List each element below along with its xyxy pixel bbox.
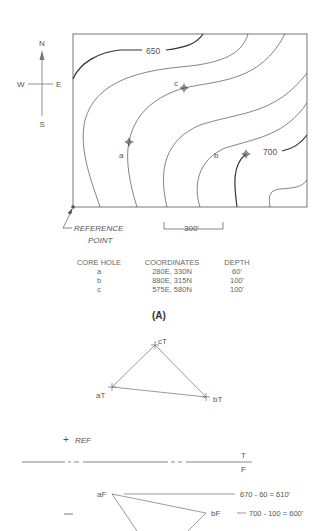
- equation-a: 670 - 60 = 610': [240, 490, 291, 499]
- cell-hole: a: [66, 267, 132, 276]
- core-hole-label-a: a: [119, 151, 124, 160]
- label-aT: aT: [96, 391, 105, 400]
- figure-caption: (A): [152, 310, 166, 321]
- contour-650: [73, 50, 142, 79]
- north-arrow-icon: [40, 50, 45, 60]
- cell-coordinates: 575E, 580N: [132, 285, 212, 294]
- compass-east: E: [56, 80, 61, 89]
- label-bF: bF: [211, 509, 220, 518]
- compass-west: W: [17, 80, 25, 89]
- cell-hole: b: [66, 276, 132, 285]
- compass: [28, 50, 53, 116]
- map-frame: [73, 34, 307, 207]
- header-depth: DEPTH: [212, 258, 262, 267]
- scale-bar-label: 300': [184, 224, 199, 233]
- core-hole-markers: [125, 84, 251, 159]
- front-view-lines: [112, 494, 246, 531]
- ref-label: REF: [75, 436, 92, 445]
- core-hole-c-icon: [180, 84, 189, 93]
- cell-depth: 60': [212, 267, 262, 276]
- ref-plus-icon: +: [63, 434, 69, 445]
- reference-point-icon: [71, 205, 75, 209]
- reference-arrow-icon: [63, 209, 72, 228]
- contour-label-650: 650: [146, 46, 160, 56]
- header-coordinates: COORDINATES: [132, 258, 212, 267]
- table-row: c 575E, 580N 100': [66, 285, 266, 294]
- label-cT: cT: [158, 337, 167, 346]
- header-core-hole: CORE HOLE: [66, 258, 132, 267]
- top-view-triangle: [108, 341, 210, 401]
- core-hole-label-b: b: [214, 151, 219, 160]
- core-hole-a-icon: [125, 138, 134, 147]
- reference-label-line2: POINT: [88, 236, 114, 245]
- cell-depth: 100': [212, 276, 262, 285]
- table-header: CORE HOLE COORDINATES DEPTH: [66, 258, 266, 267]
- table-row: a 280E, 330N 60': [66, 267, 266, 276]
- equation-b: 700 - 100 = 600': [249, 509, 304, 518]
- cell-coordinates: 280E, 330N: [132, 267, 212, 276]
- label-bT: bT: [213, 395, 222, 404]
- core-hole-label-c: c: [174, 79, 178, 88]
- cell-coordinates: 880E, 315N: [132, 276, 212, 285]
- label-aF: aF: [97, 490, 106, 499]
- core-hole-table: CORE HOLE COORDINATES DEPTH a 280E, 330N…: [66, 258, 266, 294]
- contour-lines: [73, 34, 307, 207]
- fold-label-F: F: [241, 465, 246, 474]
- compass-north: N: [39, 39, 45, 48]
- compass-south: S: [40, 120, 45, 129]
- fold-label-T: T: [241, 451, 246, 460]
- contour-label-700: 700: [263, 147, 277, 157]
- cell-hole: c: [66, 285, 132, 294]
- table-row: b 880E, 315N 100': [66, 276, 266, 285]
- reference-label-line1: REFERENCE: [74, 224, 124, 233]
- cell-depth: 100': [212, 285, 262, 294]
